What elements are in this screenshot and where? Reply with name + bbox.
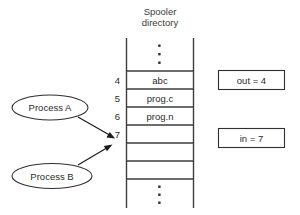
arrow-head-icon xyxy=(104,145,113,152)
in-variable-label: in = 7 xyxy=(240,133,264,144)
table-top-ellipsis-icon xyxy=(158,45,160,64)
table-row-index-7: 7 xyxy=(115,129,120,140)
table-cell-value-5: prog.c xyxy=(147,93,174,104)
process-b-to-slot7-arrow xyxy=(78,145,113,166)
table-row-index-4: 4 xyxy=(115,75,120,86)
table-row-index-6: 6 xyxy=(115,111,120,122)
spooler-directory-diagram: Spooler directory xyxy=(0,0,300,215)
process-b-label: Process B xyxy=(30,171,73,182)
in-variable-box: in = 7 xyxy=(219,129,285,148)
diagram-canvas: Spooler directory xyxy=(0,0,300,215)
spooler-table: 4 5 6 7 abc prog.c prog.n xyxy=(115,38,194,208)
table-cell-value-6: prog.n xyxy=(147,111,174,122)
table-cell-value-4: abc xyxy=(152,75,168,86)
process-a-node: Process A xyxy=(12,95,88,120)
table-row-index-5: 5 xyxy=(115,93,120,104)
arrow-head-icon xyxy=(106,132,115,138)
process-b-node: Process B xyxy=(12,164,92,189)
out-variable-box: out = 4 xyxy=(219,71,285,90)
process-a-to-slot7-arrow xyxy=(78,117,115,139)
diagram-title-line1: Spooler xyxy=(144,6,177,17)
table-bottom-ellipsis-icon xyxy=(158,186,160,204)
diagram-title-line2: directory xyxy=(142,17,179,28)
process-a-label: Process A xyxy=(29,102,72,113)
out-variable-label: out = 4 xyxy=(237,75,266,86)
